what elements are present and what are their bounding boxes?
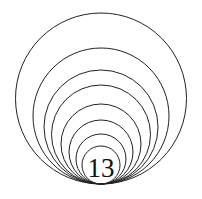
figure-number-label: 13	[88, 153, 115, 183]
nested-tangent-circles-figure: 13	[0, 0, 202, 199]
